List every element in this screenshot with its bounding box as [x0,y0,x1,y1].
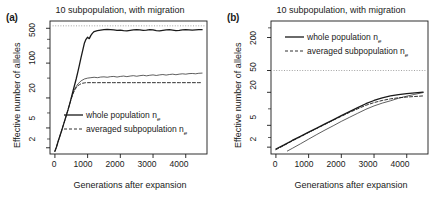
panel-b-legend-averaged: averaged subpopulation ne [307,46,408,58]
legend-whole-subscript: e [157,116,160,122]
panel-b: (b) 10 subpopulation, with migration Eff… [221,0,441,199]
legend-whole-text: whole population n [86,110,157,120]
figure-container: (a) 10 subpopulation, with migration Eff… [0,0,441,199]
panel-a-legend-whole: whole population ne [86,110,160,122]
panel-b-legend-whole: whole population ne [307,32,381,44]
legend-averaged-text: averaged subpopulation n [86,124,184,134]
legend-whole-text: whole population n [307,32,378,42]
legend-averaged-subscript: e [405,52,408,58]
legend-whole-subscript: e [378,38,381,44]
legend-averaged-subscript: e [184,130,187,136]
panel-b-plot-area [221,0,441,199]
panel-a: (a) 10 subpopulation, with migration Eff… [0,0,220,199]
panel-a-plot-area [0,0,220,199]
panel-a-legend-averaged: averaged subpopulation ne [86,124,187,136]
legend-averaged-text: averaged subpopulation n [307,46,405,56]
